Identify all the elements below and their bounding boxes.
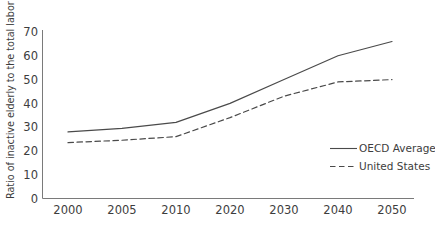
- x-axis-tick-label: 2010: [161, 203, 190, 217]
- y-axis-tick-label: 0: [31, 192, 38, 206]
- x-axis-tick-label: 2020: [215, 203, 244, 217]
- y-axis-tick-label: 10: [23, 168, 38, 182]
- y-axis-tick-label: 70: [23, 25, 38, 39]
- y-axis-tick-label: 30: [23, 120, 38, 134]
- y-axis-tick-label: 50: [23, 73, 38, 87]
- y-axis-tick-label: 60: [23, 49, 38, 63]
- x-axis-tick-label: 2040: [323, 203, 352, 217]
- y-axis-tick-label: 40: [23, 97, 38, 111]
- y-axis-title: Ratio of inactive elderly to the total l…: [5, 0, 16, 199]
- legend-label: United States: [359, 160, 430, 172]
- line-chart: Ratio of inactive elderly to the total l…: [0, 0, 435, 238]
- x-axis-tick-label: 2005: [107, 203, 136, 217]
- x-axis-tick-label: 2000: [53, 203, 82, 217]
- y-axis-tick-label: 20: [23, 144, 38, 158]
- x-axis-tick-label: 2030: [269, 203, 298, 217]
- x-axis-tick-label: 2050: [377, 203, 406, 217]
- legend-label: OECD Average: [359, 142, 435, 154]
- chart-container: Ratio of inactive elderly to the total l…: [0, 0, 435, 238]
